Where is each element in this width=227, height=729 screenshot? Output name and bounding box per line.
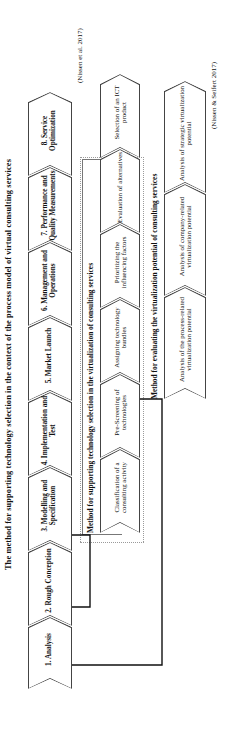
virt-stage-1[interactable]: Analysis of the process-related virtuali… bbox=[164, 287, 206, 399]
process-stage-3-label: 3. Modelling and Specification bbox=[42, 469, 58, 542]
process-stage-4-label: 4. Implementation and Test bbox=[42, 394, 58, 467]
tech-stage-5-label: Evaluation of alternatives bbox=[116, 151, 123, 224]
technology-method-title: Method for supporting technology selecti… bbox=[86, 263, 95, 533]
tech-stage-4-label: Prioritizing the influencing factors bbox=[113, 226, 128, 299]
process-stage-7[interactable]: 7. Performance and Quality Measurements bbox=[28, 167, 72, 251]
tech-stage-6[interactable]: Selection of an ICT product bbox=[100, 74, 140, 158]
process-stage-5[interactable]: 5. Market Launch bbox=[28, 317, 72, 401]
virt-stage-3[interactable]: Analysis of strategic virtualization pot… bbox=[164, 81, 206, 193]
process-model-band: 1. Analysis 2. Rough Conception 3. Model… bbox=[28, 101, 72, 689]
process-stage-2[interactable]: 2. Rough Conception bbox=[28, 542, 72, 626]
tech-stage-2[interactable]: Pre-Screening of technologies bbox=[100, 374, 140, 458]
tech-stage-1-label: Classification of a consulting activity bbox=[113, 451, 128, 524]
figure-title: The method for supporting technology sel… bbox=[4, 0, 13, 729]
process-stage-3[interactable]: 3. Modelling and Specification bbox=[28, 467, 72, 551]
process-stage-7-label: 7. Performance and Quality Measurements bbox=[42, 169, 58, 242]
tech-stage-4[interactable]: Prioritizing the influencing factors bbox=[100, 224, 140, 308]
tech-stage-2-label: Pre-Screening of technologies bbox=[113, 376, 128, 449]
virtualization-method-citation: (Nissen & Seifert 2017) bbox=[210, 62, 218, 129]
tech-stage-6-label: Selection of an ICT product bbox=[113, 76, 128, 149]
figure-canvas: The method for supporting technology sel… bbox=[0, 0, 227, 729]
virt-stage-2-label: Analysis of company-related virtualizati… bbox=[178, 186, 193, 287]
virt-stage-2[interactable]: Analysis of company-related virtualizati… bbox=[164, 184, 206, 296]
tech-stage-3-label: Assigning technology bundles bbox=[113, 301, 128, 374]
process-stage-4[interactable]: 4. Implementation and Test bbox=[28, 392, 72, 476]
process-stage-8[interactable]: 8. Service Optimization bbox=[28, 92, 72, 176]
tech-stage-3[interactable]: Assigning technology bundles bbox=[100, 299, 140, 383]
tech-stage-1[interactable]: Classification of a consulting activity bbox=[100, 449, 140, 533]
process-stage-8-label: 8. Service Optimization bbox=[42, 94, 58, 167]
virt-stage-1-label: Analysis of the process-related virtuali… bbox=[178, 289, 193, 390]
process-stage-1-label: 1. Analysis bbox=[46, 619, 54, 680]
virt-stage-3-label: Analysis of strategic virtualization pot… bbox=[178, 83, 193, 184]
technology-method-band: Classification of a consulting activity … bbox=[100, 83, 140, 533]
tech-stage-5[interactable]: Evaluation of alternatives bbox=[100, 149, 140, 233]
process-model-citation: (Nissen et al. 2017) bbox=[76, 28, 84, 83]
process-stage-1[interactable]: 1. Analysis bbox=[28, 617, 72, 689]
process-stage-2-label: 2. Rough Conception bbox=[46, 544, 54, 617]
virtualization-method-title: Method for evaluating the virtualization… bbox=[150, 174, 159, 399]
virtualization-method-band: Analysis of the process-related virtuali… bbox=[164, 90, 206, 399]
process-stage-6-label: 6. Management and Operations bbox=[42, 244, 58, 317]
process-stage-5-label: 5. Market Launch bbox=[46, 319, 54, 392]
process-stage-6[interactable]: 6. Management and Operations bbox=[28, 242, 72, 326]
